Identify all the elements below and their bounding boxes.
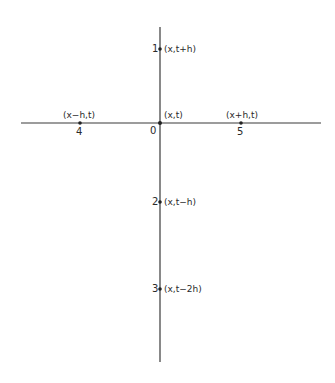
stencil-diagram: 1 (x,t+h) (x,t) 0 (x−h,t) 4 (x+h,t) 5 2 … [0, 0, 335, 383]
point-3-number: 3 [152, 283, 158, 294]
point-2-marker [158, 200, 162, 204]
point-5-marker [239, 121, 243, 125]
point-2-number: 2 [152, 196, 158, 207]
point-2-label: (x,t−h) [164, 197, 196, 207]
point-0-label: (x,t) [164, 110, 183, 120]
point-1-label: (x,t+h) [164, 44, 196, 54]
point-1-number: 1 [152, 43, 158, 54]
point-4-number: 4 [76, 126, 82, 137]
diagram-svg: 1 (x,t+h) (x,t) 0 (x−h,t) 4 (x+h,t) 5 2 … [0, 0, 335, 383]
point-0-number: 0 [150, 125, 156, 136]
point-0-marker [158, 121, 162, 125]
point-4-label: (x−h,t) [63, 110, 95, 120]
point-5-number: 5 [237, 126, 243, 137]
point-1-marker [158, 47, 162, 51]
point-3-label: (x,t−2h) [164, 284, 202, 294]
point-3-marker [158, 287, 162, 291]
point-4-marker [78, 121, 82, 125]
point-5-label: (x+h,t) [226, 110, 258, 120]
